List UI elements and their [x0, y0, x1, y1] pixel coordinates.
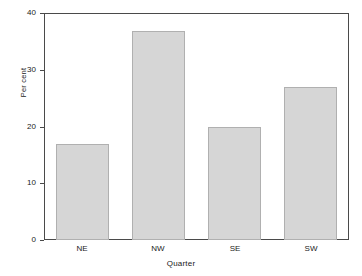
y-tick-label-40: 40 — [0, 9, 36, 17]
x-axis-title: Quarter — [0, 259, 362, 268]
y-tick-label-0: 0 — [0, 236, 36, 244]
bar-chart: 40 30 20 10 0 Per cent NE NW SE SW Quart… — [0, 0, 362, 276]
y-tick-label-10: 10 — [0, 179, 36, 187]
y-tick-mark-0 — [40, 240, 44, 241]
y-axis-title: Per cent — [19, 38, 28, 128]
plot-area — [44, 13, 349, 240]
x-tick-label-ne: NE — [52, 245, 112, 253]
x-tick-label-nw: NW — [128, 245, 188, 253]
x-tick-label-sw: SW — [281, 245, 341, 253]
x-tick-label-se: SE — [205, 245, 265, 253]
